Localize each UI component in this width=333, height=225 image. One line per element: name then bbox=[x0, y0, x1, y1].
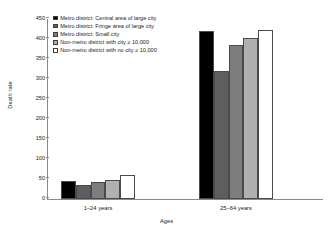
legend-label: Non-metro district with city ≥ 10,000 bbox=[60, 39, 149, 45]
y-axis-tick-label: 450 bbox=[0, 16, 45, 22]
y-axis-tick-label: 300 bbox=[0, 76, 45, 82]
chart-figure: Death rate 050100150200250300350400450 1… bbox=[0, 0, 333, 225]
bar bbox=[229, 45, 244, 199]
y-axis-tick-label: 400 bbox=[0, 36, 45, 42]
y-axis-tick-label: 350 bbox=[0, 56, 45, 62]
bar bbox=[243, 38, 258, 199]
x-axis-category-label: 25–64 years bbox=[181, 205, 291, 211]
legend-swatch-icon bbox=[53, 32, 58, 37]
legend-item: Metro district: Central area of large ci… bbox=[53, 14, 157, 22]
y-axis-tick-label: 150 bbox=[0, 136, 45, 142]
bar bbox=[214, 71, 229, 199]
x-axis-label: Ages bbox=[0, 218, 333, 224]
bar bbox=[105, 180, 120, 199]
legend-swatch-icon bbox=[53, 40, 58, 45]
bar-group bbox=[199, 19, 273, 199]
legend-label: Metro district: Central area of large ci… bbox=[60, 15, 156, 21]
legend-swatch-icon bbox=[53, 48, 58, 53]
bar bbox=[91, 182, 106, 199]
legend-item: Non-metro district with no city ≥ 10,000 bbox=[53, 46, 157, 54]
y-axis-tick-label: 0 bbox=[0, 196, 45, 202]
bar bbox=[120, 175, 135, 199]
bar bbox=[199, 31, 214, 199]
y-axis-tick-label: 100 bbox=[0, 156, 45, 162]
legend-label: Metro district: Fringe area of large cit… bbox=[60, 23, 154, 29]
y-axis-tick-label: 200 bbox=[0, 116, 45, 122]
bar bbox=[61, 181, 76, 199]
bar bbox=[76, 185, 91, 199]
legend-label: Non-metro district with no city ≥ 10,000 bbox=[60, 47, 157, 53]
legend-label: Metro district: Small city bbox=[60, 31, 119, 37]
chart-legend: Metro district: Central area of large ci… bbox=[53, 14, 157, 54]
x-axis-line bbox=[47, 199, 323, 200]
y-axis-tick-label: 250 bbox=[0, 96, 45, 102]
bar bbox=[258, 30, 273, 199]
legend-item: Metro district: Fringe area of large cit… bbox=[53, 22, 157, 30]
y-axis-tick-label: 50 bbox=[0, 176, 45, 182]
legend-item: Non-metro district with city ≥ 10,000 bbox=[53, 38, 157, 46]
legend-swatch-icon bbox=[53, 16, 58, 21]
y-axis-tick-mark bbox=[46, 17, 49, 18]
x-axis-category-label: 1–24 years bbox=[43, 205, 153, 211]
legend-item: Metro district: Small city bbox=[53, 30, 157, 38]
legend-swatch-icon bbox=[53, 24, 58, 29]
